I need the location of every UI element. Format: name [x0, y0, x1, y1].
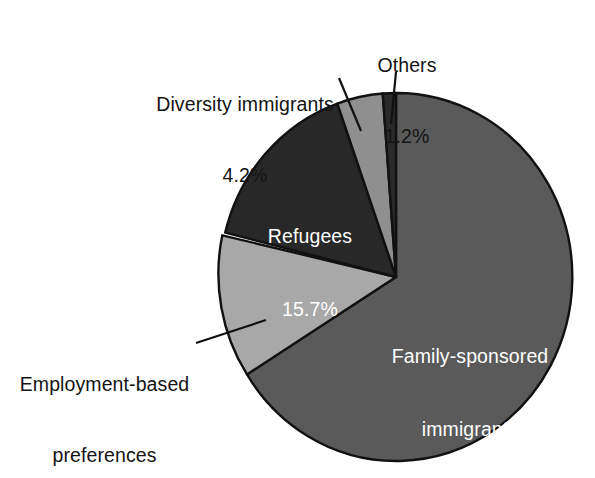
- pie-label-family-sponsored-name-line2: immigrants: [378, 417, 562, 441]
- pie-label-others-name: Others: [352, 54, 462, 78]
- pie-label-diversity-immigrants-name: Diversity immigrants: [130, 93, 360, 117]
- pie-chart: Others 1.2% Diversity immigrants 4.2% Em…: [0, 0, 595, 478]
- pie-label-family-sponsored: Family-sponsored immigrants 66.1%: [378, 296, 562, 478]
- pie-label-others-value: 1.2%: [352, 125, 462, 149]
- pie-label-employment-based-name-line2: preferences: [2, 444, 207, 468]
- pie-label-others: Others 1.2%: [352, 6, 462, 196]
- pie-label-refugees-name: Refugees: [238, 224, 382, 248]
- pie-label-refugees-value: 15.7%: [238, 297, 382, 321]
- pie-label-employment-based: Employment-based preferences 12.7%: [2, 325, 207, 478]
- pie-label-employment-based-name-line1: Employment-based: [2, 373, 207, 397]
- pie-label-family-sponsored-name-line1: Family-sponsored: [378, 344, 562, 368]
- pie-label-refugees: Refugees 15.7%: [238, 176, 382, 369]
